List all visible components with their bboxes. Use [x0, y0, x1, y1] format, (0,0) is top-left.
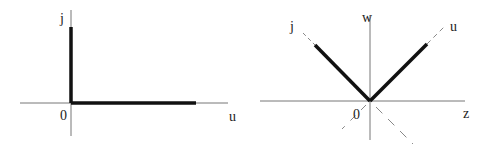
right-thick-j-segment: [315, 45, 370, 101]
right-diagram: w j u 0 z: [260, 10, 469, 144]
right-label-w: w: [362, 10, 373, 25]
right-dashed-j-extension: [303, 33, 315, 45]
right-label-u: u: [450, 19, 457, 34]
right-dashed-lower-right: [376, 107, 413, 144]
right-label-j: j: [289, 19, 294, 34]
diagram-canvas: j 0 u w j u 0 z: [0, 0, 493, 151]
right-label-z: z: [463, 106, 469, 121]
left-diagram: j 0 u: [20, 10, 236, 136]
left-label-origin: 0: [60, 108, 67, 123]
left-label-j: j: [59, 11, 64, 26]
left-label-u: u: [229, 109, 236, 124]
right-thick-u-segment: [370, 44, 427, 101]
right-label-origin: 0: [353, 107, 360, 122]
right-dashed-u-extension: [427, 25, 446, 44]
